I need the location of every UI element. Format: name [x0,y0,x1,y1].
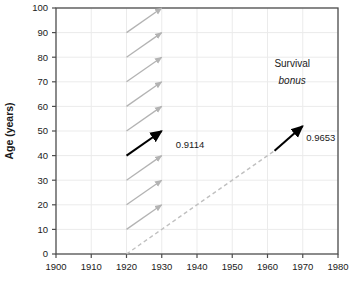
x-tick-label: 1930 [151,261,172,272]
x-tick-label: 1920 [116,261,137,272]
y-tick-label: 60 [37,101,48,112]
x-tick-label: 1940 [186,261,207,272]
y-tick-label: 0 [43,248,48,259]
y-tick-label: 70 [37,76,48,87]
y-tick-label: 100 [32,2,48,13]
chart-canvas: 190019101920193019401950196019701980 010… [0,0,362,292]
y-tick-label: 30 [37,175,48,186]
x-tick-label: 1970 [292,261,313,272]
x-tick-label: 1950 [222,261,243,272]
annotation-survival-bonus-line1: Survival [274,58,310,69]
annotation-period-probability: 0.9114 [176,139,204,150]
y-tick-label: 20 [37,199,48,210]
annotation-cohort-probability: 0.9653 [306,132,335,143]
y-tick-label: 90 [37,27,48,38]
y-tick-label: 10 [37,224,48,235]
y-tick-label: 80 [37,52,48,63]
y-tick-label: 40 [37,150,48,161]
annotation-survival-bonus-line2: bonus [279,75,306,86]
x-axis-tick-labels: 190019101920193019401950196019701980 [45,261,348,272]
survival-bonus-chart-figure: 190019101920193019401950196019701980 010… [0,0,362,292]
x-tick-label: 1980 [327,261,348,272]
x-tick-label: 1960 [257,261,278,272]
y-tick-label: 50 [37,125,48,136]
x-tick-label: 1910 [81,261,102,272]
y-axis-title: Age (years) [3,102,15,159]
x-tick-label: 1900 [45,261,66,272]
